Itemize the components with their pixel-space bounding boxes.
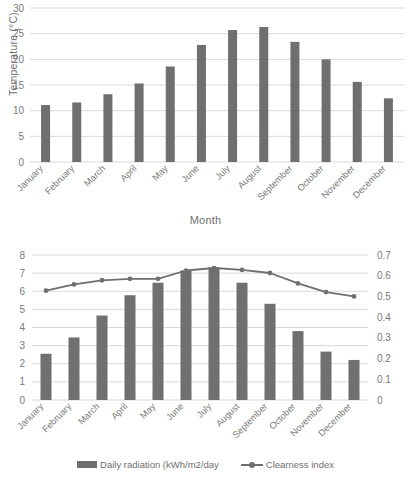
bar[interactable] xyxy=(228,30,237,162)
bar[interactable] xyxy=(259,27,268,162)
bar[interactable] xyxy=(265,304,276,400)
bar[interactable] xyxy=(181,270,192,400)
line-marker[interactable] xyxy=(296,281,301,286)
x-tick-label: April xyxy=(118,163,138,183)
bar[interactable] xyxy=(293,331,304,400)
y-tick-label: 4 xyxy=(19,322,25,333)
temperature-x-axis-title: Month xyxy=(0,214,411,226)
x-tick-label: January xyxy=(15,163,45,193)
y-tick-label: 5 xyxy=(19,304,25,315)
y2-tick-label: 0.1 xyxy=(377,374,391,385)
x-tick-label: March xyxy=(82,163,107,188)
x-tick-label: July xyxy=(213,163,232,182)
temperature-y-axis-title: Temperature (°C) xyxy=(7,0,19,114)
y2-tick-label: 0.6 xyxy=(377,270,391,281)
x-tick-label: February xyxy=(40,401,73,434)
x-tick-label: March xyxy=(76,401,101,426)
bar[interactable] xyxy=(72,102,81,162)
y-tick-label: 5 xyxy=(18,131,24,142)
y-tick-label: 8 xyxy=(19,250,25,261)
bar[interactable] xyxy=(321,352,332,400)
bar[interactable] xyxy=(197,45,206,162)
x-tick-label: August xyxy=(214,401,242,429)
x-tick-label: June xyxy=(180,163,201,184)
y2-tick-label: 0.7 xyxy=(377,250,391,261)
bar[interactable] xyxy=(322,59,331,162)
line-marker[interactable] xyxy=(44,288,49,293)
line-marker[interactable] xyxy=(268,271,273,276)
line-marker[interactable] xyxy=(240,268,245,273)
x-tick-label: August xyxy=(236,163,264,191)
line-marker[interactable] xyxy=(100,278,105,283)
y2-tick-label: 0.2 xyxy=(377,353,391,364)
bar-swatch-icon xyxy=(77,461,97,468)
bar[interactable] xyxy=(166,67,175,162)
y-tick-label: 7 xyxy=(19,268,25,279)
bar[interactable] xyxy=(290,42,299,162)
legend-entry-daily-radiation[interactable]: Daily radiation (kWh/m2/day xyxy=(77,459,219,470)
x-tick-label: February xyxy=(43,163,76,196)
bar[interactable] xyxy=(349,360,360,400)
y-tick-label: 3 xyxy=(19,340,25,351)
y2-tick-label: 0.5 xyxy=(377,291,391,302)
x-tick-label: May xyxy=(150,163,170,183)
line-marker-swatch-icon xyxy=(241,461,263,468)
y-tick-label: 0 xyxy=(19,395,25,406)
clearness-index-line[interactable] xyxy=(46,268,354,296)
line-marker[interactable] xyxy=(324,290,329,295)
bar[interactable] xyxy=(384,98,393,162)
bar[interactable] xyxy=(41,105,50,162)
line-marker[interactable] xyxy=(72,282,77,287)
line-marker[interactable] xyxy=(212,266,217,271)
y2-tick-label: 0 xyxy=(377,395,383,406)
legend-label-clearness-index: Clearness index xyxy=(266,459,334,470)
temperature-plot-area: 051015202530JanuaryFebruaryMarchAprilMay… xyxy=(0,0,411,240)
line-marker[interactable] xyxy=(184,268,189,273)
x-tick-label: April xyxy=(109,401,129,421)
bar[interactable] xyxy=(209,267,220,400)
bar[interactable] xyxy=(69,337,80,400)
bar[interactable] xyxy=(353,82,362,162)
y2-tick-label: 0.3 xyxy=(377,332,391,343)
radiation-chart: 01234567800.10.20.30.40.50.60.7JanuaryFe… xyxy=(0,240,411,485)
x-tick-label: July xyxy=(195,401,214,420)
y-tick-label: 1 xyxy=(19,376,25,387)
y-tick-label: 0 xyxy=(18,157,24,168)
x-tick-label: December xyxy=(351,163,388,200)
y-tick-label: 6 xyxy=(19,286,25,297)
y-tick-label: 2 xyxy=(19,358,25,369)
y2-tick-label: 0.4 xyxy=(377,312,391,323)
bar[interactable] xyxy=(135,83,144,162)
bar[interactable] xyxy=(97,316,108,400)
bar[interactable] xyxy=(125,295,136,400)
x-tick-label: June xyxy=(164,401,185,422)
bar[interactable] xyxy=(41,354,52,400)
radiation-plot-area: 01234567800.10.20.30.40.50.60.7JanuaryFe… xyxy=(0,240,411,485)
bar[interactable] xyxy=(153,283,164,400)
legend-label-daily-radiation: Daily radiation (kWh/m2/day xyxy=(100,459,219,470)
line-marker[interactable] xyxy=(352,294,357,299)
bar[interactable] xyxy=(103,94,112,162)
legend-entry-clearness-index[interactable]: Clearness index xyxy=(241,459,334,470)
line-marker[interactable] xyxy=(156,276,161,281)
x-tick-label: October xyxy=(295,163,325,193)
chart-legend: Daily radiation (kWh/m2/day Clearness in… xyxy=(0,459,411,470)
bar[interactable] xyxy=(237,283,248,400)
x-tick-label: May xyxy=(138,401,158,421)
temperature-chart: 051015202530JanuaryFebruaryMarchAprilMay… xyxy=(0,0,411,240)
line-marker[interactable] xyxy=(128,276,133,281)
